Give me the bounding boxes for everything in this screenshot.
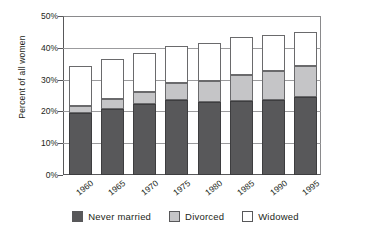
bar-segment[interactable] (230, 101, 253, 175)
bar-group[interactable] (294, 32, 317, 175)
bar-segment[interactable] (262, 35, 285, 71)
bar-segment[interactable] (230, 75, 253, 101)
bar-segment[interactable] (101, 99, 124, 109)
x-axis-tick-labels: 19601965197019751980198519901995 (63, 176, 321, 208)
bar-segment[interactable] (133, 92, 156, 103)
bar-segment[interactable] (133, 104, 156, 175)
x-axis-tick-label: 1975 (171, 178, 192, 198)
plot-area (63, 16, 321, 175)
bar-group[interactable] (198, 43, 221, 175)
legend-label: Divorced (185, 211, 224, 222)
legend-label: Never married (88, 211, 151, 222)
legend-swatch-icon (72, 211, 83, 222)
chart-legend: Never marriedDivorcedWidowed (0, 211, 371, 222)
bar-segment[interactable] (294, 97, 317, 175)
bar-series-container (63, 16, 321, 175)
x-axis-tick-label: 1985 (235, 178, 256, 198)
x-axis-tick-label: 1960 (74, 178, 95, 198)
bar-group[interactable] (262, 35, 285, 175)
legend-item[interactable]: Divorced (169, 211, 224, 222)
bar-group[interactable] (133, 53, 156, 175)
y-axis-tick-labels: 0%10%20%30%40%50% (0, 16, 58, 175)
bar-segment[interactable] (165, 83, 188, 100)
x-axis-tick-label: 1970 (139, 178, 160, 198)
bar-segment[interactable] (198, 102, 221, 175)
bar-group[interactable] (69, 66, 92, 175)
y-axis-tick-label: 20% (0, 106, 58, 116)
bar-segment[interactable] (198, 43, 221, 81)
bar-segment[interactable] (69, 106, 92, 113)
legend-swatch-icon (169, 211, 180, 222)
bar-segment[interactable] (101, 59, 124, 99)
bar-group[interactable] (101, 59, 124, 175)
bar-segment[interactable] (69, 113, 92, 175)
bar-segment[interactable] (262, 100, 285, 175)
y-axis-tick-label: 50% (0, 11, 58, 21)
bar-segment[interactable] (165, 100, 188, 175)
stacked-bar-chart: Percent of all women 0%10%20%30%40%50% 1… (0, 0, 371, 235)
legend-label: Widowed (258, 211, 298, 222)
legend-item[interactable]: Never married (72, 211, 151, 222)
x-axis-tick-label: 1965 (106, 178, 127, 198)
bar-segment[interactable] (165, 46, 188, 83)
x-axis-tick-label: 1980 (203, 178, 224, 198)
bar-segment[interactable] (230, 37, 253, 75)
legend-item[interactable]: Widowed (242, 211, 298, 222)
bar-segment[interactable] (294, 32, 317, 66)
legend-swatch-icon (242, 211, 253, 222)
bar-segment[interactable] (101, 109, 124, 175)
bar-segment[interactable] (133, 53, 156, 93)
y-axis-tick-label: 0% (0, 170, 58, 180)
x-axis-tick-label: 1990 (268, 178, 289, 198)
x-axis-tick-label: 1995 (300, 178, 321, 198)
bar-group[interactable] (230, 37, 253, 175)
bar-segment[interactable] (294, 66, 317, 97)
bar-group[interactable] (165, 46, 188, 175)
bar-segment[interactable] (69, 66, 92, 106)
bar-segment[interactable] (198, 81, 221, 102)
y-axis-tick-label: 30% (0, 75, 58, 85)
bar-segment[interactable] (262, 71, 285, 100)
y-axis-tick-label: 40% (0, 43, 58, 53)
y-axis-tick-label: 10% (0, 138, 58, 148)
